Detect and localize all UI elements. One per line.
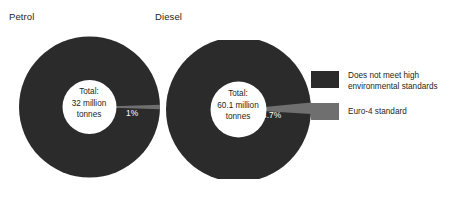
legend-label-euro4: Euro-4 standard: [348, 103, 407, 118]
panel-title-diesel: Diesel: [155, 11, 182, 22]
legend-label-does-not-meet: Does not meet high environmental standar…: [348, 71, 438, 92]
petrol-center-label: Total: 32 million tonnes: [53, 86, 125, 121]
petrol-center-line-2: 32 million: [53, 98, 125, 110]
legend-item-euro4: Euro-4 standard: [311, 103, 438, 120]
petrol-center-line-1: Total:: [53, 86, 125, 98]
petrol-center-line-3: tonnes: [53, 109, 125, 121]
legend-item-does-not-meet: Does not meet high environmental standar…: [311, 71, 438, 92]
diesel-center-line-1: Total:: [198, 88, 278, 100]
dual-donut-chart-figure: Petrol Diesel Total: 32 million tonnes 1…: [0, 0, 458, 200]
diesel-slice-percent-label: 4.7%: [262, 110, 281, 120]
petrol-slice-percent-label: 1%: [126, 108, 138, 118]
panel-title-petrol: Petrol: [9, 11, 34, 22]
legend-swatch-dark: [311, 71, 339, 88]
chart-legend: Does not meet high environmental standar…: [311, 71, 438, 131]
legend-swatch-gray: [311, 103, 339, 120]
